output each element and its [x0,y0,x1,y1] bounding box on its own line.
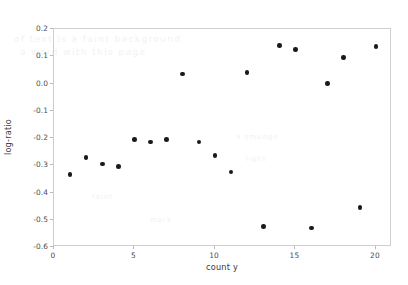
data-point [164,137,169,142]
data-point [68,172,73,177]
data-point [277,43,282,48]
y-tick-label: -0.1 [6,105,48,114]
data-point [261,224,266,229]
x-axis-label: count y [206,262,238,272]
data-point [374,44,379,49]
x-tick-label: 10 [209,251,219,260]
x-tick-mark [375,246,376,249]
data-point [100,162,105,167]
x-tick-mark [133,246,134,249]
data-point [84,155,89,160]
data-point [358,205,363,210]
y-tick-label: 0.2 [6,24,48,33]
y-tick-label: 0.0 [6,78,48,87]
data-point [325,81,330,86]
x-tick-label: 20 [370,251,380,260]
data-points-layer [54,29,390,245]
plot-area [53,28,391,246]
x-tick-label: 15 [290,251,300,260]
data-point [148,140,153,145]
data-point [229,170,234,175]
y-tick-label: -0.2 [6,133,48,142]
data-point [309,226,314,231]
data-point [341,55,346,60]
data-point [180,72,185,77]
x-tick-mark [214,246,215,249]
y-tick-label: -0.5 [6,214,48,223]
data-point [213,153,218,158]
y-tick-label: -0.6 [6,242,48,251]
data-point [197,140,202,145]
x-tick-mark [294,246,295,249]
data-point [116,164,121,169]
scatter-chart-figure: of text is a faint background a word wit… [0,0,408,285]
y-tick-label: 0.1 [6,51,48,60]
x-tick-mark [53,246,54,249]
x-tick-label: 5 [131,251,136,260]
x-tick-label: 0 [51,251,56,260]
y-tick-label: -0.4 [6,187,48,196]
y-tick-label: -0.3 [6,160,48,169]
data-point [245,70,250,75]
data-point [132,137,137,142]
data-point [293,47,298,52]
